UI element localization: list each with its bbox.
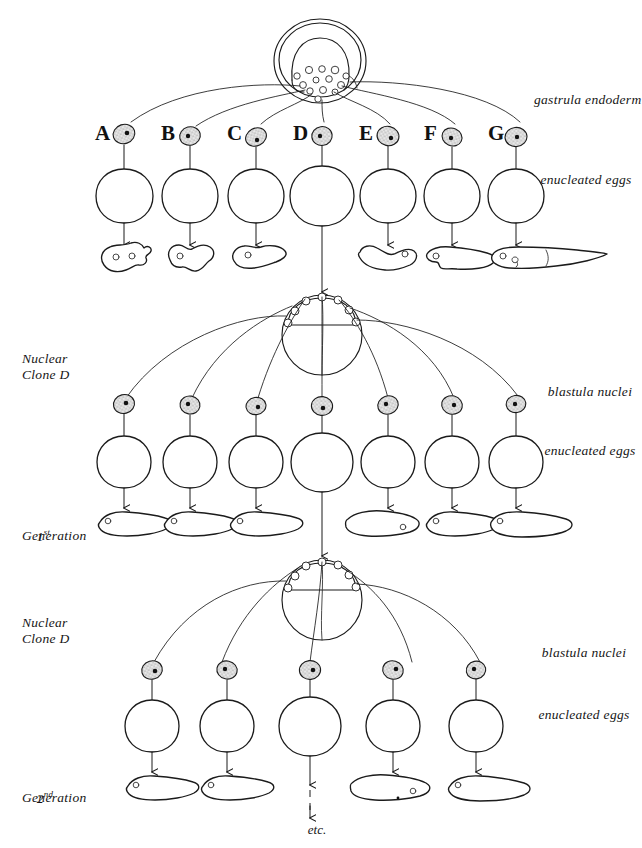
gen2-column-2 xyxy=(200,659,274,800)
nuclear-clone-label-2-line1: Nuclear xyxy=(22,615,132,631)
gen1-column-5 xyxy=(346,393,420,536)
larva-outline xyxy=(427,247,495,269)
blastula-transfer-curves-1 xyxy=(126,297,518,398)
gastrula-figure xyxy=(274,19,366,103)
diagram-canvas: A B C D E F G gastrula endoderm nuclei e… xyxy=(0,0,642,848)
gen1-column-2 xyxy=(163,394,237,536)
column-letter-c: C xyxy=(227,121,242,147)
gen2-column-3 xyxy=(279,660,341,818)
enucleated-egg xyxy=(290,166,354,226)
nuclear-clone-label-2-line2: Clone D xyxy=(22,631,132,647)
gen2-column-5 xyxy=(449,659,530,801)
generation-label-2-line2: Generation xyxy=(22,790,142,806)
gastrula-endoderm-nuclei-label: gastrula endoderm nuclei xyxy=(534,92,638,108)
column-letter-a: A xyxy=(95,121,110,147)
enucleated-egg xyxy=(228,169,284,223)
column-letter-b: B xyxy=(161,121,175,147)
gen2-column-4 xyxy=(350,658,429,800)
gen1-column-6 xyxy=(425,394,499,536)
donor-nucleus xyxy=(504,126,528,147)
blastula-nuclei-label-1: blastula nuclei xyxy=(540,384,640,400)
enucleated-eggs-label-bottom: enucleated eggs xyxy=(532,707,636,723)
tadpole-larva xyxy=(492,247,607,268)
transfer-column-g xyxy=(488,126,607,268)
enucleated-egg xyxy=(96,169,153,223)
blastula-nuclei-label-2: blastula nuclei xyxy=(532,645,636,661)
nuclear-clone-label-1-line2: Clone D xyxy=(22,367,132,383)
transfer-column-d xyxy=(290,125,354,292)
donor-nucleus xyxy=(178,125,203,148)
column-letter-d: D xyxy=(293,121,308,147)
column-letter-f: F xyxy=(424,121,437,147)
donor-nucleus xyxy=(111,121,138,146)
donor-nucleus xyxy=(375,124,401,147)
donor-nucleus xyxy=(242,124,269,150)
etc-label: etc. xyxy=(297,822,337,838)
generation-label-1-line2: Generation xyxy=(22,528,142,544)
enucleated-eggs-label-middle: enucleated eggs xyxy=(540,443,640,459)
enucleated-egg xyxy=(162,169,218,223)
donor-nucleus xyxy=(311,125,334,146)
column-letter-e: E xyxy=(359,121,373,147)
column-letter-g: G xyxy=(488,121,504,147)
blastula-transfer-curves-2 xyxy=(154,562,480,662)
enucleated-eggs-label-top: enucleated eggs xyxy=(534,172,638,188)
nuclear-clone-label-1-line1: Nuclear xyxy=(22,351,132,367)
gen1-column-7 xyxy=(489,394,572,537)
gen1-column-4 xyxy=(291,396,353,556)
enucleated-egg xyxy=(424,169,480,223)
donor-nucleus xyxy=(439,125,465,149)
enucleated-egg xyxy=(360,169,416,223)
